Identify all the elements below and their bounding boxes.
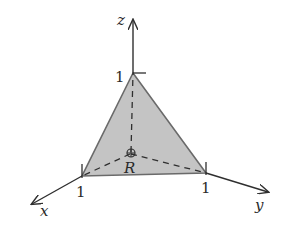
- region-label: R: [123, 159, 135, 177]
- y-tick-label: 1: [201, 179, 211, 197]
- shaded-triangle-face: [82, 73, 206, 176]
- y-axis: [206, 173, 268, 192]
- y-axis-label: y: [254, 196, 264, 214]
- origin-marker-icon: [127, 149, 135, 157]
- z-axis-label: z: [116, 11, 125, 29]
- x-tick-label: 1: [76, 183, 86, 201]
- x-axis-label: x: [40, 202, 49, 220]
- z-tick-label: 1: [115, 68, 125, 86]
- triangle-region-diagram: z 1 x 1 y 1 R: [0, 0, 290, 231]
- x-axis: [32, 176, 82, 204]
